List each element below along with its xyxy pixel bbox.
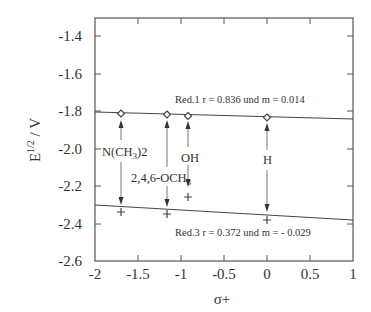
- x-tick-label: -2: [89, 266, 102, 282]
- red3-annotation: Red.3 r = 0.372 und m = - 0.029: [175, 227, 311, 238]
- red1-fit-line: [95, 112, 353, 119]
- substituent-labels: N(CH3)2 2,4,6-OCH3 OH H: [102, 145, 272, 187]
- label-h: H: [263, 153, 272, 167]
- x-tick-label: -0.5: [212, 266, 236, 282]
- data-point-marker: [118, 110, 125, 117]
- label-och3: 2,4,6-OCH3: [131, 171, 192, 187]
- y-tick-label: -2.6: [58, 253, 82, 269]
- red3-markers: [117, 193, 271, 224]
- red1-markers: [118, 110, 271, 121]
- y-ticks: [95, 36, 353, 224]
- y-tick-labels: -1.4 -1.6 -1.8 -2.0 -2.2 -2.4 -2.6: [58, 28, 82, 269]
- label-oh: OH: [181, 151, 199, 165]
- y-axis-label: E1/2 / V: [25, 118, 43, 162]
- data-point-marker: [263, 216, 271, 224]
- label-nme2: N(CH3)2: [102, 145, 147, 161]
- x-axis-label: σ+: [214, 291, 231, 307]
- data-point-marker: [184, 193, 192, 201]
- x-tick-label: 0.5: [301, 266, 320, 282]
- data-point-marker: [185, 113, 192, 120]
- chart: -1.4 -1.6 -1.8 -2.0 -2.2 -2.4 -2.6 -2 -1…: [0, 0, 371, 312]
- x-tick-label: -1.5: [126, 266, 150, 282]
- x-tick-labels: -2 -1.5 -1 -0.5 0 0.5 1: [89, 266, 357, 282]
- y-tick-label: -2.4: [58, 216, 82, 232]
- y-tick-label: -2.0: [58, 141, 82, 157]
- x-tick-label: 1: [349, 266, 357, 282]
- data-point-marker: [264, 114, 271, 121]
- x-tick-label: 0: [263, 266, 271, 282]
- red1-annotation: Red.1 r = 0.836 und m = 0.014: [175, 94, 305, 105]
- x-ticks: [138, 18, 310, 261]
- y-tick-label: -1.8: [58, 103, 82, 119]
- red3-fit-line: [95, 205, 353, 220]
- data-point-marker: [164, 111, 171, 118]
- data-point-marker: [117, 208, 125, 216]
- y-tick-label: -2.2: [58, 178, 82, 194]
- y-tick-label: -1.4: [58, 28, 82, 44]
- x-tick-label: -1: [175, 266, 188, 282]
- y-tick-label: -1.6: [58, 66, 82, 82]
- data-point-marker: [163, 210, 171, 218]
- plot-frame: [95, 18, 353, 261]
- shift-arrows: [119, 120, 270, 212]
